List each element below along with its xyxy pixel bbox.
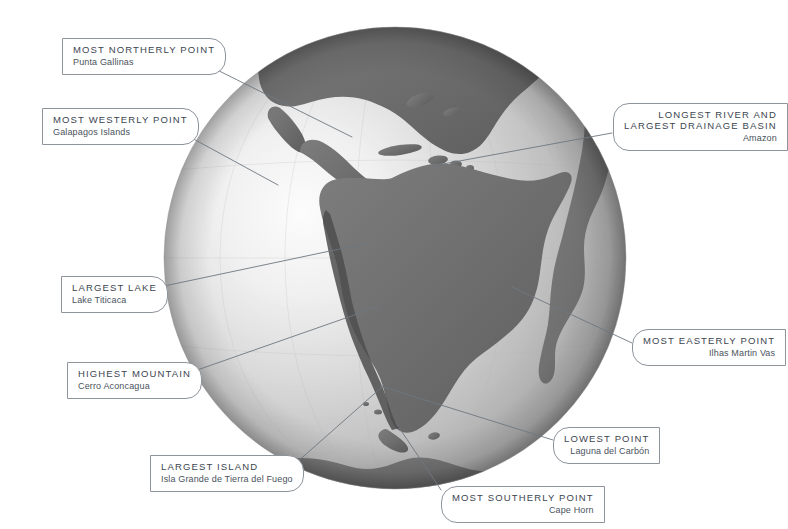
- callout-title: HIGHEST MOUNTAIN: [78, 368, 191, 379]
- callout-longest-river-largest-drainage-basin[interactable]: LONGEST RIVER AND LARGEST DRAINAGE BASIN…: [613, 103, 788, 151]
- leader-line-most-southerly-point: [396, 423, 441, 490]
- callout-most-easterly-point[interactable]: MOST EASTERLY POINT Ilhas Martin Vas: [632, 329, 786, 366]
- callout-title: MOST EASTERLY POINT: [643, 335, 775, 346]
- callout-title: LARGEST LAKE: [72, 282, 157, 293]
- leader-line-largest-island: [296, 387, 382, 463]
- callout-most-westerly-point[interactable]: MOST WESTERLY POINT Galapagos Islands: [42, 108, 199, 145]
- leader-line-lowest-point: [380, 386, 553, 440]
- leader-line-highest-mountain: [183, 306, 380, 375]
- callout-largest-island[interactable]: LARGEST ISLAND Isla Grande de Tierra del…: [150, 455, 304, 492]
- leader-line-most-easterly-point: [512, 287, 632, 343]
- callout-title-line-2: LARGEST DRAINAGE BASIN: [624, 120, 777, 131]
- callout-subtitle: Laguna del Carbón: [564, 446, 649, 457]
- callout-title: MOST NORTHERLY POINT: [73, 44, 215, 55]
- callout-subtitle: Lake Titicaca: [72, 295, 157, 306]
- callout-subtitle: Isla Grande de Tierra del Fuego: [161, 474, 293, 485]
- callout-lowest-point[interactable]: LOWEST POINT Laguna del Carbón: [553, 427, 660, 464]
- callout-subtitle: Amazon: [624, 133, 777, 144]
- callout-highest-mountain[interactable]: HIGHEST MOUNTAIN Cerro Aconcagua: [67, 362, 202, 399]
- callout-most-southerly-point[interactable]: MOST SOUTHERLY POINT Cape Horn: [441, 486, 605, 523]
- callout-subtitle: Ilhas Martin Vas: [643, 348, 775, 359]
- callout-subtitle: Galapagos Islands: [53, 127, 188, 138]
- callout-title-line-1: LONGEST RIVER AND: [624, 109, 777, 120]
- callout-title: MOST WESTERLY POINT: [53, 114, 188, 125]
- callout-title: LARGEST ISLAND: [161, 461, 293, 472]
- callout-subtitle: Punta Gallinas: [73, 57, 215, 68]
- callout-title: LOWEST POINT: [564, 433, 649, 444]
- callout-most-northerly-point[interactable]: MOST NORTHERLY POINT Punta Gallinas: [62, 38, 226, 75]
- callout-title: MOST SOUTHERLY POINT: [452, 492, 594, 503]
- callout-largest-lake[interactable]: LARGEST LAKE Lake Titicaca: [61, 276, 168, 313]
- leader-line-largest-lake: [150, 243, 368, 289]
- callout-subtitle: Cerro Aconcagua: [78, 381, 191, 392]
- leader-line-longest-river: [432, 133, 612, 166]
- callout-subtitle: Cape Horn: [452, 505, 594, 516]
